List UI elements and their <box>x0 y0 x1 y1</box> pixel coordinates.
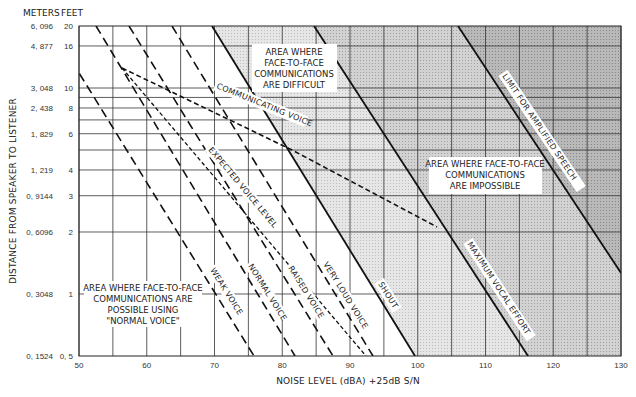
y-tick-feet: 10 <box>64 84 73 93</box>
x-tick-label: 130 <box>614 361 628 370</box>
y-tick-feet: 20 <box>64 22 73 31</box>
y-tick-meters: 4, 877 <box>31 42 54 51</box>
y-tick-feet: 3 <box>69 192 74 201</box>
x-tick-label: 90 <box>346 361 355 370</box>
y-tick-meters: 3, 048 <box>31 84 54 93</box>
area-impossible-annotation: AREA WHERE FACE-TO-FACE COMMUNICATIONS A… <box>425 157 544 194</box>
y-tick-feet: 6 <box>69 130 74 139</box>
x-tick-label: 70 <box>210 361 219 370</box>
x-tick-label: 80 <box>278 361 287 370</box>
x-axis-ticks: 5060708090100110120130 <box>75 361 629 370</box>
area-impossible-line-2: COMMUNICATIONS <box>445 170 525 180</box>
y-tick-feet: 1 <box>69 290 74 299</box>
area-possible-line-1: AREA WHERE FACE-TO-FACE <box>83 283 202 293</box>
y-tick-feet: 16 <box>64 42 73 51</box>
y-tick-meters: 2, 438 <box>31 104 54 113</box>
speech-communication-chart: COMMUNICATING VOICE EXPECTED VOICE LEVEL… <box>0 0 636 397</box>
y-tick-feet: 0, 5 <box>60 352 74 361</box>
area-difficult-line-2: FACE-TO-FACE <box>264 58 324 68</box>
y-tick-meters: 6, 096 <box>31 22 54 31</box>
area-possible-line-3: POSSIBLE USING <box>108 305 179 315</box>
x-tick-label: 50 <box>75 361 84 370</box>
area-possible-line-4: "NORMAL VOICE" <box>106 316 180 326</box>
x-tick-label: 110 <box>479 361 492 370</box>
y-tick-meters: 1, 219 <box>31 166 54 175</box>
area-impossible-line-3: ARE IMPOSSIBLE <box>450 181 521 191</box>
feet-header: FEET <box>61 8 84 18</box>
area-difficult-line-4: ARE DIFFICULT <box>263 80 326 90</box>
area-possible-line-2: COMMUNICATIONS ARE <box>93 294 192 304</box>
area-difficult-annotation: AREA WHERE FACE-TO-FACE COMMUNICATIONS A… <box>252 44 337 92</box>
x-tick-label: 100 <box>411 361 425 370</box>
expected-voice-level-label: EXPECTED VOICE LEVEL <box>206 146 279 230</box>
y-tick-feet: 4 <box>69 166 74 175</box>
area-difficult-line-1: AREA WHERE <box>265 47 322 57</box>
y-axis-ticks: 6, 096204, 877163, 048102, 43881, 82961,… <box>26 22 73 361</box>
y-tick-meters: 0, 1524 <box>26 352 53 361</box>
y-tick-feet: 2 <box>69 228 74 237</box>
y-tick-feet: 8 <box>69 104 74 113</box>
x-tick-label: 120 <box>547 361 561 370</box>
y-tick-meters: 1, 829 <box>31 130 54 139</box>
y-tick-meters: 0, 3048 <box>26 290 53 299</box>
y-axis-title: DISTANCE FROM SPEAKER TO LISTENER <box>8 98 18 284</box>
x-axis-title: NOISE LEVEL (dBA) +25dB S/N <box>276 376 420 386</box>
y-tick-meters: 0, 9144 <box>26 192 53 201</box>
area-impossible-line-1: AREA WHERE FACE-TO-FACE <box>425 159 544 169</box>
area-difficult-line-3: COMMUNICATIONS <box>254 69 334 79</box>
y-tick-meters: 0, 6096 <box>26 228 53 237</box>
meters-header: METERS <box>23 8 60 18</box>
area-possible-annotation: AREA WHERE FACE-TO-FACE COMMUNICATIONS A… <box>83 281 202 327</box>
x-tick-label: 60 <box>142 361 151 370</box>
